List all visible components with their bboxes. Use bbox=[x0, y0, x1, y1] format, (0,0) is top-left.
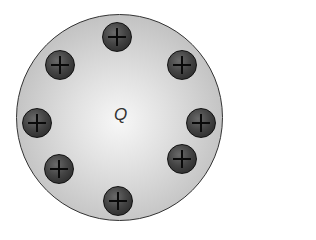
positive-charge-icon bbox=[103, 186, 133, 216]
plus-vertical-bar bbox=[200, 114, 202, 132]
positive-charge-icon bbox=[167, 144, 197, 174]
plus-vertical-bar bbox=[59, 56, 61, 74]
positive-charge-icon bbox=[102, 22, 132, 52]
plus-vertical-bar bbox=[181, 150, 183, 168]
positive-charge-icon bbox=[186, 108, 216, 138]
plus-vertical-bar bbox=[181, 56, 183, 74]
charge-label-q: Q bbox=[114, 105, 127, 125]
plus-vertical-bar bbox=[58, 160, 60, 178]
positive-charge-icon bbox=[44, 154, 74, 184]
positive-charge-icon bbox=[45, 50, 75, 80]
plus-vertical-bar bbox=[117, 192, 119, 210]
positive-charge-icon bbox=[22, 108, 52, 138]
positive-charge-icon bbox=[167, 50, 197, 80]
plus-vertical-bar bbox=[116, 28, 118, 46]
plus-vertical-bar bbox=[36, 114, 38, 132]
